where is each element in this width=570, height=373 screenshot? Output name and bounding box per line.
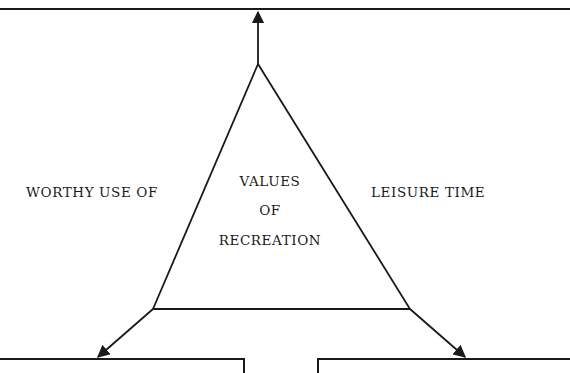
right-label: LEISURE TIME: [371, 186, 485, 200]
center-label-of: OF: [220, 204, 320, 218]
bottom-left-box-edge: [0, 359, 244, 373]
down-left-arrow: [98, 309, 153, 357]
down-right-arrow: [410, 309, 465, 357]
center-label-values: VALUES: [220, 175, 320, 189]
left-label: WORTHY USE OF: [26, 186, 158, 200]
bottom-right-box-edge: [318, 359, 570, 373]
center-label-recreation: RECREATION: [200, 234, 340, 248]
